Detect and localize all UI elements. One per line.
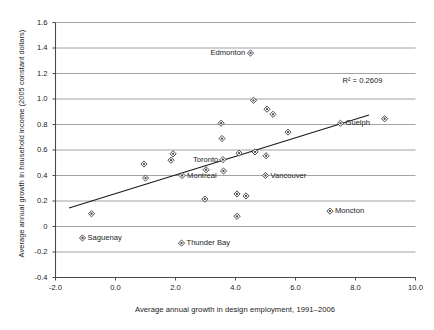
point-label-thunder-bay: Thunder Bay [187, 238, 230, 247]
point-label-guelph: Guelph [346, 118, 371, 127]
data-point-marker [234, 213, 240, 219]
data-point-marker [264, 106, 270, 112]
data-point-marker [243, 193, 249, 199]
y-tick-label: 0 [20, 222, 48, 231]
x-tick-label: 8.0 [341, 283, 371, 292]
r-squared-annotation: R² = 0.2609 [343, 76, 383, 85]
data-point-marker [168, 157, 174, 163]
scatter-chart-figure: Average annual growth in household incom… [0, 0, 434, 330]
y-tick-label: 1.0 [20, 94, 48, 103]
y-tick-label: 0.2 [20, 196, 48, 205]
y-tick-label: 1.2 [20, 69, 48, 78]
data-point-marker [218, 120, 224, 126]
data-point-marker [170, 151, 176, 157]
y-tick-label: 0.4 [20, 171, 48, 180]
data-point-marker [327, 208, 333, 214]
point-label-saguenay: Saguenay [88, 233, 122, 242]
data-point-marker [285, 129, 291, 135]
data-markers [79, 50, 387, 246]
data-point-marker [247, 50, 253, 56]
data-point-marker [270, 111, 276, 117]
data-point-marker [220, 168, 226, 174]
x-tick-label: 6.0 [281, 283, 311, 292]
data-point-marker [234, 191, 240, 197]
data-point-marker [337, 120, 343, 126]
x-tick-label: 4.0 [221, 283, 251, 292]
data-point-marker [250, 97, 256, 103]
y-tick-label: 0.8 [20, 120, 48, 129]
x-tick-label: -2.0 [41, 283, 71, 292]
x-tick-label: 10.0 [401, 283, 431, 292]
data-point-marker [382, 116, 388, 122]
point-label-moncton: Moncton [335, 206, 364, 215]
data-point-marker [263, 153, 269, 159]
trendline [69, 115, 369, 208]
data-point-marker [178, 240, 184, 246]
y-tick-label: -0.2 [20, 247, 48, 256]
x-tick-label: 0.0 [101, 283, 131, 292]
data-point-marker [262, 172, 268, 178]
y-tick-label: 1.4 [20, 43, 48, 52]
data-point-marker [79, 235, 85, 241]
point-label-edmonton: Edmonton [211, 48, 246, 57]
y-axis-title: Average annual growth in household incom… [17, 19, 26, 269]
x-tick-label: 2.0 [161, 283, 191, 292]
data-point-marker [220, 156, 226, 162]
y-tick-label: -0.4 [20, 273, 48, 282]
x-axis-title: Average annual growth in design employme… [55, 305, 415, 314]
y-tick-label: 1.6 [20, 18, 48, 27]
y-tick-label: 0.6 [20, 145, 48, 154]
point-label-toronto: Toronto [193, 155, 218, 164]
data-point-marker [88, 211, 94, 217]
point-label-montreal: Montreal [187, 171, 217, 180]
point-label-vancouver: Vancouver [271, 171, 307, 180]
data-point-marker [141, 161, 147, 167]
data-point-marker [219, 135, 225, 141]
